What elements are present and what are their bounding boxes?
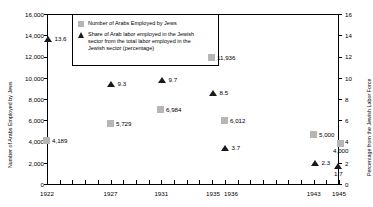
bottom-axis-line bbox=[47, 184, 339, 185]
x-tickmark-1945 bbox=[339, 180, 340, 184]
x-tickmark-1940 bbox=[276, 180, 277, 184]
left-tick-10000: 10,000 bbox=[25, 75, 44, 82]
x-tickmark-1922 bbox=[47, 180, 48, 184]
right-tick-10: 10 bbox=[345, 75, 352, 82]
data-label-triangles-1945: 1.7 bbox=[334, 170, 343, 177]
left-tick-8000: 8,000 bbox=[29, 96, 44, 103]
right-tickmark-6 bbox=[339, 120, 342, 121]
data-label-triangles-1922: 13.6 bbox=[55, 35, 67, 42]
left-tick-12000: 12,000 bbox=[25, 53, 44, 60]
right-axis-title: Percentage from the Jewish Labor Force bbox=[366, 78, 372, 176]
legend-item-triangles: Share of Arab labor employed in the Jewi… bbox=[78, 31, 206, 53]
x-tickmark-1941 bbox=[288, 180, 289, 184]
legend-label-squares: Number of Arabs Employed by Jews bbox=[88, 20, 177, 27]
chart-container: Number of Arabs Employed by Jews Percent… bbox=[0, 0, 373, 207]
left-tickmark-8000 bbox=[44, 99, 47, 100]
x-tickmark-1926 bbox=[98, 180, 99, 184]
triangle-marker-icon bbox=[158, 77, 166, 83]
data-point-squares-1927: 5,729 bbox=[107, 120, 131, 127]
square-marker-icon bbox=[221, 117, 228, 124]
right-tickmark-16 bbox=[339, 14, 342, 15]
x-tickmark-1942 bbox=[301, 180, 302, 184]
x-tickmark-1936 bbox=[225, 180, 226, 184]
right-tickmark-0 bbox=[339, 184, 342, 185]
right-tick-2: 2 bbox=[345, 160, 348, 167]
x-tickmark-1928 bbox=[123, 180, 124, 184]
right-tick-14: 14 bbox=[345, 32, 352, 39]
data-label-squares-1945: 4,000 bbox=[333, 147, 348, 154]
right-tick-0: 0 bbox=[345, 181, 348, 188]
x-tickmark-1923 bbox=[60, 180, 61, 184]
data-label-triangles-1943: 2.3 bbox=[322, 159, 331, 166]
left-tickmark-0 bbox=[44, 184, 47, 185]
data-point-triangles-1943: 2.3 bbox=[311, 159, 330, 166]
chart-legend: Number of Arabs Employed by Jews Share o… bbox=[72, 14, 219, 66]
x-label-1936: 1936 bbox=[224, 190, 238, 197]
left-tick-2000: 2,000 bbox=[29, 160, 44, 167]
left-tick-16000: 16,000 bbox=[25, 11, 44, 18]
triangle-marker-icon bbox=[311, 160, 319, 166]
x-tickmark-1938 bbox=[250, 180, 251, 184]
data-point-squares-1936: 6,012 bbox=[221, 117, 245, 124]
data-label-squares-1936: 6,012 bbox=[230, 117, 245, 124]
data-point-triangles-1945: 1.7 bbox=[334, 163, 343, 177]
x-tickmark-1943 bbox=[314, 180, 315, 184]
left-tickmark-10000 bbox=[44, 78, 47, 79]
right-tick-6: 6 bbox=[345, 117, 348, 124]
data-point-squares-1935: 11,936 bbox=[208, 54, 235, 61]
right-tickmark-12 bbox=[339, 57, 342, 58]
x-label-1935: 1935 bbox=[206, 190, 220, 197]
legend-label-triangles: Share of Arab labor employed in the Jewi… bbox=[88, 31, 206, 53]
left-tickmark-2000 bbox=[44, 163, 47, 164]
left-axis-title: Number of Arabs Employed by Jews bbox=[7, 81, 13, 168]
triangle-marker-icon bbox=[107, 81, 115, 87]
data-label-squares-1943: 5,000 bbox=[319, 131, 334, 138]
triangle-marker-icon bbox=[78, 32, 84, 38]
x-tickmark-1932 bbox=[174, 180, 175, 184]
x-tickmark-1930 bbox=[149, 180, 150, 184]
x-tickmark-1929 bbox=[136, 180, 137, 184]
legend-item-squares: Number of Arabs Employed by Jews bbox=[78, 20, 177, 27]
data-label-triangles-1935: 8.5 bbox=[220, 89, 229, 96]
square-marker-icon bbox=[43, 137, 50, 144]
left-tick-6000: 6,000 bbox=[29, 117, 44, 124]
data-label-squares-1922: 4,189 bbox=[52, 137, 67, 144]
data-point-squares-1922: 4,189 bbox=[43, 137, 67, 144]
left-tick-14000: 14,000 bbox=[25, 32, 44, 39]
x-tickmark-1944 bbox=[326, 180, 327, 184]
data-label-triangles-1936: 3.7 bbox=[232, 144, 241, 151]
right-tickmark-14 bbox=[339, 35, 342, 36]
square-marker-icon bbox=[337, 140, 344, 147]
left-tickmark-12000 bbox=[44, 57, 47, 58]
x-tickmark-1924 bbox=[72, 180, 73, 184]
x-label-1927: 1927 bbox=[104, 190, 118, 197]
data-point-squares-1943: 5,000 bbox=[310, 131, 334, 138]
x-tickmark-1933 bbox=[187, 180, 188, 184]
data-label-squares-1935: 11,936 bbox=[217, 54, 235, 61]
data-point-squares-1931: 6,984 bbox=[157, 106, 181, 113]
right-tickmark-10 bbox=[339, 78, 342, 79]
data-point-triangles-1936: 3.7 bbox=[221, 144, 240, 151]
triangle-marker-icon bbox=[44, 36, 52, 42]
data-point-triangles-1935: 8.5 bbox=[209, 89, 228, 96]
left-tickmark-16000 bbox=[44, 14, 47, 15]
triangle-marker-icon bbox=[334, 163, 342, 169]
x-tickmark-1939 bbox=[263, 180, 264, 184]
square-marker-icon bbox=[157, 106, 164, 113]
square-marker-icon bbox=[78, 21, 84, 27]
square-marker-icon bbox=[107, 120, 114, 127]
data-point-triangles-1931: 9.7 bbox=[158, 76, 177, 83]
x-tickmark-1927 bbox=[111, 180, 112, 184]
square-marker-icon bbox=[310, 131, 317, 138]
data-label-triangles-1927: 9.3 bbox=[118, 80, 127, 87]
data-point-triangles-1922: 13.6 bbox=[44, 35, 67, 42]
x-tickmark-1931 bbox=[161, 180, 162, 184]
left-tickmark-6000 bbox=[44, 120, 47, 121]
right-tickmark-8 bbox=[339, 99, 342, 100]
left-tick-4000: 4,000 bbox=[29, 138, 44, 145]
x-tickmark-1925 bbox=[85, 180, 86, 184]
x-label-1922: 1922 bbox=[40, 190, 54, 197]
data-label-squares-1931: 6,984 bbox=[166, 106, 181, 113]
x-tickmark-1937 bbox=[238, 180, 239, 184]
right-tick-16: 16 bbox=[345, 11, 352, 18]
